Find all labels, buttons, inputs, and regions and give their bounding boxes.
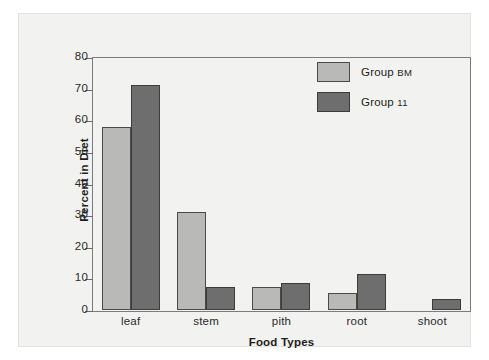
y-tick-label: 20 bbox=[75, 240, 88, 252]
y-tick-label: 80 bbox=[75, 50, 88, 62]
bar-group: leaf bbox=[93, 57, 168, 310]
bar[interactable] bbox=[206, 287, 235, 310]
y-tick-label: 50 bbox=[75, 145, 88, 157]
bar-group: stem bbox=[168, 57, 243, 310]
bar-group-bars bbox=[168, 57, 243, 310]
y-tick-label: 40 bbox=[75, 177, 88, 189]
y-tick-label: 60 bbox=[75, 113, 88, 125]
bar-groups: leafstempithrootshoot bbox=[93, 57, 470, 310]
x-tick-label: pith bbox=[244, 315, 319, 327]
legend-label: Group 11 bbox=[361, 96, 408, 108]
bar-group: pith bbox=[244, 57, 319, 310]
bar[interactable] bbox=[252, 287, 281, 310]
x-tick-label: root bbox=[319, 315, 394, 327]
bar[interactable] bbox=[328, 293, 357, 310]
bar[interactable] bbox=[177, 212, 206, 310]
legend-swatch bbox=[317, 92, 350, 112]
figure-panel: Percent in Diet 01020304050607080 leafst… bbox=[18, 13, 471, 347]
x-tick-label: stem bbox=[168, 315, 243, 327]
legend-label: Group BM bbox=[361, 66, 412, 78]
y-tick-label: 0 bbox=[81, 303, 88, 315]
x-axis-title: Food Types bbox=[92, 336, 471, 348]
x-tick-label: leaf bbox=[93, 315, 168, 327]
bar-group-bars bbox=[93, 57, 168, 310]
bar-group-bars bbox=[244, 57, 319, 310]
y-tick-label: 30 bbox=[75, 208, 88, 220]
bar[interactable] bbox=[432, 299, 461, 310]
y-tick-label: 10 bbox=[75, 271, 88, 283]
bar[interactable] bbox=[357, 274, 386, 310]
legend-item[interactable]: Group 11 bbox=[317, 92, 412, 112]
bar[interactable] bbox=[281, 283, 310, 310]
legend-swatch bbox=[317, 62, 350, 82]
bar[interactable] bbox=[102, 127, 131, 310]
y-tick-label: 70 bbox=[75, 82, 88, 94]
legend-item[interactable]: Group BM bbox=[317, 62, 412, 82]
chart-legend: Group BMGroup 11 bbox=[317, 62, 412, 112]
bar[interactable] bbox=[131, 85, 160, 310]
x-tick-label: shoot bbox=[395, 315, 470, 327]
